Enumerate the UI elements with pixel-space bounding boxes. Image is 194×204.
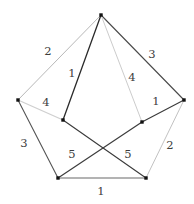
- graph-canvas: 23144132551: [0, 0, 194, 204]
- graph-node-top-vertex: [99, 13, 102, 16]
- graph-edge-e_right_bottomright: [146, 100, 184, 178]
- graph-edge-e_right_innerright: [142, 100, 184, 122]
- graph-edge-e_top_innerright: [101, 15, 142, 122]
- edge-label-e_top_innerright: 4: [128, 70, 135, 84]
- edge-label-e_bottom: 1: [97, 184, 104, 198]
- edge-label-e_top_left: 2: [44, 44, 51, 58]
- edge-label-e_top_right: 3: [148, 47, 155, 61]
- edge-labels-layer: 23144132551: [20, 44, 173, 198]
- graph-node-inner-right-vertex: [140, 120, 143, 123]
- edge-label-e_top_innerleft: 1: [68, 66, 75, 80]
- graph-node-left-vertex: [16, 98, 19, 101]
- edge-label-e_innerleft_bottomright: 5: [124, 147, 131, 161]
- graph-figure: 23144132551: [0, 0, 194, 204]
- graph-node-bottom-left-vertex: [56, 176, 59, 179]
- graph-edge-e_top_left: [18, 15, 101, 100]
- graph-edge-e_left_innerleft: [18, 100, 63, 120]
- edge-label-e_innerright_bottomleft: 5: [68, 147, 75, 161]
- graph-edge-e_top_right: [101, 15, 184, 100]
- edge-label-e_left_bottomleft: 3: [20, 136, 27, 150]
- edge-label-e_right_innerright: 1: [152, 94, 159, 108]
- graph-node-bottom-right-vertex: [144, 176, 147, 179]
- edge-label-e_right_bottomright: 2: [166, 138, 173, 152]
- graph-node-right-vertex: [182, 98, 185, 101]
- graph-node-inner-left-vertex: [61, 118, 64, 121]
- edge-label-e_left_innerleft: 4: [42, 95, 49, 109]
